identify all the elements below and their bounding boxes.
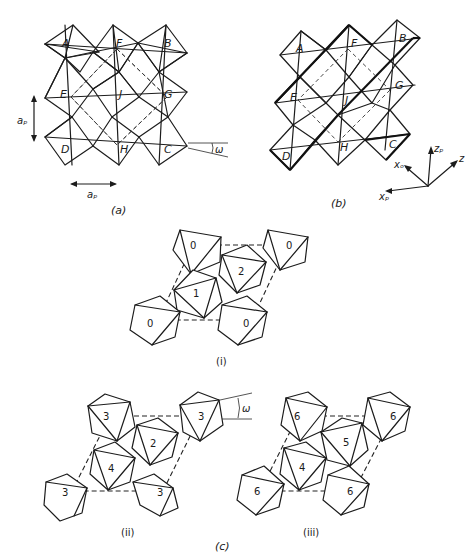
label-F: F: [116, 37, 123, 50]
i-label-0-bl: 0: [147, 318, 153, 329]
label-D: D: [61, 143, 69, 156]
ii-label-3-tl: 3: [103, 411, 109, 422]
panel-b: A F B E J G D H C zₚ z xₒ xₚ (b): [270, 20, 465, 210]
b-label-B: B: [399, 32, 407, 45]
b-label-E: E: [290, 91, 297, 104]
iii-label-6-tr: 6: [390, 411, 396, 422]
octahedron-i-0-bl: [130, 296, 180, 345]
caption-ii: (ii): [121, 527, 134, 538]
octahedron-i-0-tl: [173, 230, 221, 274]
vertical-dimension-label: aₚ: [17, 115, 27, 126]
i-label-0-br: 0: [243, 318, 249, 329]
omega-label: ω: [215, 144, 223, 155]
ii-label-2: 2: [150, 438, 156, 449]
ii-label-3-tr: 3: [198, 411, 204, 422]
i-label-1: 1: [193, 288, 199, 299]
ii-label-3-br: 3: [157, 487, 163, 498]
b-label-F: F: [351, 37, 358, 50]
iii-label-6-tl: 6: [294, 411, 300, 422]
caption-a: (a): [111, 204, 126, 217]
axis-zp-label: zₚ: [433, 143, 444, 154]
horizontal-dimension-arrow: [70, 181, 117, 187]
axis-z-label: z: [458, 153, 465, 164]
caption-c: (c): [215, 540, 230, 553]
horizontal-dimension-label: aₚ: [87, 189, 97, 200]
iii-label-5: 5: [343, 437, 349, 448]
b-label-H: H: [340, 141, 348, 154]
octahedron-iii-6-tl: [281, 392, 327, 441]
i-label-0-tr: 0: [286, 240, 292, 251]
axis-xo-label: xₒ: [393, 159, 404, 170]
caption-iii: (iii): [303, 527, 319, 538]
octahedron-iii-6-br: [323, 466, 369, 515]
iii-label-6-br: 6: [347, 486, 353, 497]
octahedral-tilt-figure: A F B E J G D H C aₚ aₚ ω (a): [0, 0, 473, 557]
b-label-G: G: [395, 79, 404, 92]
iii-label-4: 4: [299, 462, 305, 473]
vertical-dimension-arrow: [31, 95, 37, 142]
label-H: H: [120, 143, 128, 156]
label-G: G: [164, 88, 173, 101]
ii-omega-label: ω: [242, 403, 250, 414]
panel-a: A F B E J G D H C aₚ aₚ ω (a): [17, 25, 228, 217]
label-A: A: [61, 37, 70, 50]
i-label-2: 2: [238, 266, 244, 277]
b-label-A: A: [295, 42, 304, 55]
axis-xp-label: xₚ: [378, 191, 389, 202]
caption-i: (i): [216, 356, 227, 367]
label-B: B: [164, 37, 172, 50]
octahedron-ii-3-tl: [88, 394, 135, 441]
octahedron-B: [138, 25, 187, 72]
b-label-D: D: [282, 150, 290, 163]
ii-label-4: 4: [108, 463, 114, 474]
octahedron-iii-6-tr: [363, 392, 410, 441]
i-label-0-tl: 0: [190, 240, 196, 251]
axes-triad: [385, 146, 458, 194]
octahedron-ii-3-br: [133, 474, 178, 516]
panel-c-i: 0 0 2 1 0 0 (i): [130, 230, 308, 367]
label-E: E: [60, 88, 67, 101]
b-label-C: C: [389, 138, 397, 151]
iii-label-6-bl: 6: [254, 486, 260, 497]
caption-b: (b): [331, 197, 347, 210]
ii-label-3-bl: 3: [62, 487, 68, 498]
octahedron-iii-6-bl: [237, 466, 284, 515]
label-C: C: [164, 143, 172, 156]
panel-c-iii: 6 6 5 4 6 6 (iii): [237, 392, 410, 538]
panel-c-ii: ω 3 3 2 4 3 3 (ii): [44, 392, 252, 538]
